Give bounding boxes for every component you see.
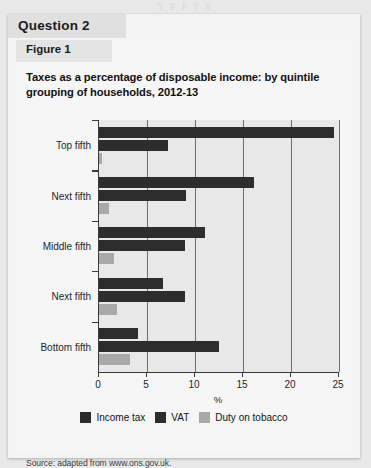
x-axis-tick (242, 372, 243, 377)
y-axis-tick (92, 322, 98, 323)
bar-chart: Top fifthNext fifthMiddle fifthNext fift… (16, 112, 352, 412)
bar-income-tax (99, 127, 334, 138)
chart-legend: Income taxVATDuty on tobacco (16, 412, 352, 423)
legend-swatch-icon (199, 412, 210, 423)
x-axis-tick-label: 25 (332, 379, 343, 390)
bar-group: Next fifth (99, 271, 339, 321)
legend-item-vat: VAT (155, 412, 189, 423)
legend-swatch-icon (155, 412, 166, 423)
y-axis-tick (92, 120, 98, 121)
bar-duty-on-tobacco (99, 354, 130, 365)
y-axis-tick (92, 221, 98, 222)
bar-vat (99, 140, 168, 151)
category-label: Bottom fifth (40, 341, 91, 352)
bar-vat (99, 291, 185, 302)
page-bleed-text: y g p y g (0, 0, 371, 12)
question-title: Question 2 (18, 18, 90, 33)
x-axis-tick-label: 0 (95, 379, 101, 390)
category-label: Next fifth (52, 190, 91, 201)
x-axis-title: % (98, 394, 338, 405)
bar-group: Bottom fifth (99, 322, 339, 372)
x-axis-line (98, 372, 339, 373)
legend-item-duty-on-tobacco: Duty on tobacco (199, 412, 287, 423)
x-axis-tick-label: 10 (188, 379, 199, 390)
x-axis-tick-label: 15 (236, 379, 247, 390)
figure-label: Figure 1 (26, 43, 71, 55)
y-axis-tick (92, 271, 98, 272)
legend-label: Income tax (96, 412, 145, 423)
y-axis-tick (92, 170, 98, 171)
bar-income-tax (99, 328, 138, 339)
x-axis-tick (194, 372, 195, 377)
bar-income-tax (99, 227, 205, 238)
source-note: Source: adapted from www.ons.gov.uk. (26, 458, 171, 468)
bar-income-tax (99, 177, 254, 188)
plot-area: Top fifthNext fifthMiddle fifthNext fift… (98, 120, 339, 372)
legend-label: VAT (171, 412, 189, 423)
bar-group: Next fifth (99, 170, 339, 220)
bar-duty-on-tobacco (99, 203, 109, 214)
legend-item-income-tax: Income tax (80, 412, 145, 423)
figure-title: Taxes as a percentage of disposable inco… (26, 70, 338, 100)
x-axis-tick (338, 372, 339, 377)
legend-swatch-icon (80, 412, 91, 423)
gridline (339, 120, 340, 372)
bar-vat (99, 341, 219, 352)
x-axis-tick-label: 20 (284, 379, 295, 390)
x-axis-tick-label: 5 (143, 379, 149, 390)
category-label: Top fifth (56, 140, 91, 151)
bar-duty-on-tobacco (99, 304, 117, 315)
figure-card: Figure 1 Taxes as a percentage of dispos… (16, 40, 352, 450)
legend-label: Duty on tobacco (215, 412, 287, 423)
bar-group: Middle fifth (99, 221, 339, 271)
bar-vat (99, 240, 185, 251)
x-axis-tick (290, 372, 291, 377)
bar-duty-on-tobacco (99, 153, 102, 164)
bar-group: Top fifth (99, 120, 339, 170)
x-axis-tick (98, 372, 99, 377)
category-label: Next fifth (52, 291, 91, 302)
bar-duty-on-tobacco (99, 253, 114, 264)
x-axis-tick (146, 372, 147, 377)
question-card: Question 2 Figure 1 Taxes as a percentag… (8, 14, 360, 458)
bar-vat (99, 190, 186, 201)
category-label: Middle fifth (43, 240, 91, 251)
bar-income-tax (99, 278, 163, 289)
